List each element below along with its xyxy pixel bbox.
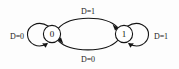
- edge-label-self-loop-state-1: D=1: [154, 32, 168, 41]
- transition-0-to-1: [59, 18, 119, 30]
- state-transition-diagram: 0 1 D=0 D=1 D=0 D=1: [0, 0, 179, 69]
- state-node-0[interactable]: 0: [43, 25, 60, 42]
- state-node-1-label: 1: [122, 29, 127, 39]
- state-node-1[interactable]: 1: [115, 25, 132, 42]
- fsm-canvas: 0 1 D=0 D=1 D=0 D=1: [0, 0, 179, 69]
- edge-label-self-loop-state-0: D=0: [10, 32, 24, 41]
- edge-label-transition-0-to-1: D=1: [81, 7, 95, 16]
- edge-label-transition-1-to-0: D=0: [81, 55, 95, 64]
- state-node-0-label: 0: [50, 29, 55, 39]
- transition-1-to-0: [58, 38, 118, 50]
- transition-1-to-0-path: [58, 40, 118, 49]
- transition-0-to-1-path: [59, 18, 118, 28]
